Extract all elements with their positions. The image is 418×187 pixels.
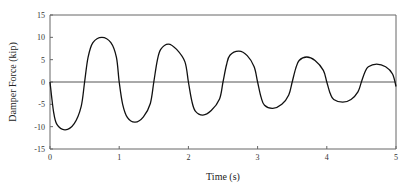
y-tick-label: -5 <box>38 100 45 109</box>
x-tick-label: 5 <box>394 153 398 162</box>
x-tick-label: 2 <box>186 153 190 162</box>
x-tick-label: 4 <box>325 153 329 162</box>
y-tick-label: -10 <box>34 123 45 132</box>
y-tick-label: -15 <box>34 145 45 154</box>
y-tick-label: 15 <box>37 11 45 20</box>
x-tick-label: 1 <box>117 153 121 162</box>
y-axis-label: Damper Force (kip) <box>7 42 19 121</box>
y-tick-label: 10 <box>37 33 45 42</box>
x-tick-label: 3 <box>256 153 260 162</box>
y-tick-label: 0 <box>41 78 45 87</box>
x-axis-label: Time (s) <box>206 171 240 183</box>
x-tick-label: 0 <box>48 153 52 162</box>
chart: 151050-5-10-15 012345 Time (s) Damper Fo… <box>0 0 418 187</box>
x-axis-ticks: 012345 <box>48 146 398 162</box>
damper-force-line <box>50 37 396 129</box>
y-tick-label: 5 <box>41 56 45 65</box>
